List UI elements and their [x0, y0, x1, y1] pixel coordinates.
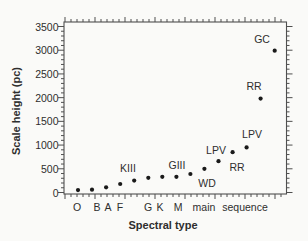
x-category-label: F — [117, 201, 123, 213]
data-point — [231, 150, 235, 154]
data-point — [259, 97, 263, 101]
data-point — [146, 176, 150, 180]
data-point — [118, 182, 122, 186]
x-category-label: O — [73, 201, 81, 213]
point-annotation: GIII — [169, 159, 186, 171]
x-category-label: sequence — [222, 201, 268, 213]
data-point — [174, 175, 178, 179]
scale-height-scatter-figure: 0500100015002000250030003500 OBAFGKMmain… — [0, 0, 308, 241]
data-point — [132, 179, 136, 183]
x-category-label: main — [193, 201, 216, 213]
x-category-labels: OBAFGKMmainsequence — [73, 201, 268, 213]
y-tick-label: 1500 — [35, 115, 59, 127]
data-point — [104, 185, 108, 189]
y-tick-label: 2500 — [35, 68, 59, 80]
data-point — [90, 188, 94, 192]
point-annotation: RR — [229, 161, 245, 173]
point-annotation: KIII — [120, 162, 136, 174]
x-axis-title: Spectral type — [128, 219, 197, 231]
x-category-label: G — [144, 201, 152, 213]
point-annotation: GC — [254, 33, 270, 45]
data-point — [76, 188, 80, 192]
x-category-label: B — [93, 201, 100, 213]
y-tick-label: 2000 — [35, 92, 59, 104]
point-annotations: KIIIGIIIWDLPVRRLPVRRGC — [120, 33, 270, 189]
y-tick-labels: 0500100015002000250030003500 — [35, 21, 59, 199]
chart-svg: 0500100015002000250030003500 OBAFGKMmain… — [0, 0, 308, 241]
y-tick-label: 3500 — [35, 21, 59, 33]
point-annotation: LPV — [242, 128, 262, 140]
x-category-label: A — [104, 201, 111, 213]
data-point — [273, 49, 277, 53]
y-tick-label: 0 — [53, 187, 59, 199]
x-category-label: M — [174, 201, 183, 213]
data-point — [216, 159, 220, 163]
point-annotation: RR — [246, 80, 262, 92]
x-category-label: K — [156, 201, 163, 213]
y-axis-title: Scale height (pc) — [10, 67, 22, 155]
y-tick-label: 500 — [41, 163, 59, 175]
data-point — [245, 145, 249, 149]
data-point — [188, 172, 192, 176]
data-point — [160, 175, 164, 179]
data-point — [202, 167, 206, 171]
y-tick-label: 3000 — [35, 44, 59, 56]
point-annotation: WD — [198, 177, 216, 189]
y-tick-label: 1000 — [35, 139, 59, 151]
point-annotation: LPV — [206, 144, 226, 156]
